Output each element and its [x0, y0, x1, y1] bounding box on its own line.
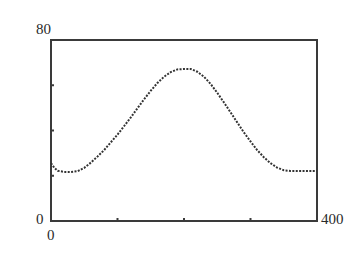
y-max-label: 80 — [36, 21, 51, 37]
x-max-label: 400 — [321, 211, 344, 227]
plot-frame — [51, 40, 317, 221]
data-curve — [51, 69, 317, 172]
line-chart: 80 0 0 400 — [0, 0, 355, 254]
y-min-label: 0 — [36, 211, 44, 227]
axis-ticks — [51, 85, 251, 221]
x-min-label: 0 — [47, 227, 55, 243]
